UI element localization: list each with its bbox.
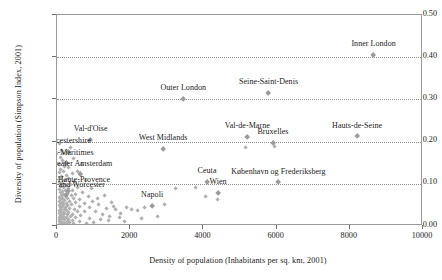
data-point [91,220,96,225]
data-point [100,213,105,218]
data-point [243,145,248,150]
data-point [102,193,107,198]
gridline [57,99,421,100]
point-label: Outer London [160,83,206,92]
data-point [104,206,109,211]
x-tick-mark [349,225,350,229]
data-point [106,219,111,224]
point-label: Bruxelles [257,127,288,136]
x-axis-title: Density of population (Inhabitants per s… [48,256,428,265]
x-tick-mark [56,225,57,229]
data-point [194,185,199,190]
x-tick-label: 10000 [392,231,442,240]
point-label: Val-d'Oise [74,124,108,133]
data-point [216,198,221,203]
labeled-data-point [180,96,186,102]
data-point [87,217,92,222]
point-label: Napoli [141,190,163,199]
data-point [93,209,98,214]
data-point [88,205,93,210]
data-point [91,199,96,204]
x-tick-mark [276,225,277,229]
data-point [77,198,82,203]
point-label: Inner London [351,39,395,48]
point-label: København og Frederiksberg [231,167,325,176]
point-label: Hereford and Worcester [56,180,105,189]
gridline [57,57,421,58]
data-point [99,217,104,222]
x-tick-label: 8000 [319,231,379,240]
y-axis-title: Diversity of population (Simpson Index, … [14,4,30,244]
point-label: Ceuta [198,166,217,175]
labeled-data-point [215,190,221,196]
data-point [86,194,91,199]
data-point [130,207,135,212]
point-label: Hauts-de-Seine [332,121,382,130]
gridline [57,142,421,143]
data-point [155,214,160,219]
x-tick-label: 6000 [246,231,306,240]
labeled-data-point [265,90,271,96]
x-tick-label: 0 [26,231,86,240]
data-point [139,217,144,222]
data-point [203,194,208,199]
x-tick-mark [129,225,130,229]
data-point [80,190,85,195]
data-point [117,215,122,220]
data-point [77,219,82,224]
point-label: Wien [209,177,226,186]
point-label: Seine-Saint-Denis [239,77,298,86]
x-tick-label: 2000 [99,231,159,240]
data-point [143,206,148,211]
data-point [174,187,179,192]
data-point [83,210,88,215]
data-point [84,221,89,225]
labeled-data-point [149,203,155,209]
plot-area: Inner LondonSeine-Saint-DenisOuter Londo… [56,14,422,225]
point-label: Greater Amsterdam [56,159,112,168]
point-label: Alpes-Maritimes [56,148,94,157]
x-tick-mark [202,225,203,229]
data-point [75,209,80,214]
data-point [122,220,127,225]
gridline [57,184,421,185]
data-point [83,201,88,206]
data-point [71,221,76,225]
labeled-data-point [244,134,250,140]
point-label: West Midlands [139,133,188,142]
data-point [163,203,168,208]
data-point [95,196,100,201]
point-label: Leicestershire [56,136,91,145]
labeled-data-point [354,133,360,139]
labeled-data-point [160,146,166,152]
x-tick-mark [422,225,423,229]
data-point [78,213,83,218]
x-tick-label: 4000 [172,231,232,240]
data-point [77,204,82,209]
data-point [97,203,102,208]
data-point [135,209,140,214]
